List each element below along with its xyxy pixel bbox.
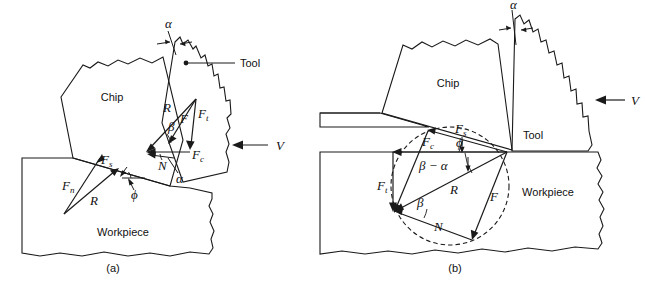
panel-a: Workpiece Chip Tool Tool α V R F <box>22 16 286 274</box>
rake-angle-label-b: α <box>510 0 518 12</box>
force-R-label-b: R <box>449 182 458 197</box>
force-F-label-b: F <box>489 189 499 204</box>
chip-shape-b <box>382 39 512 150</box>
caption-b: (b) <box>448 262 461 274</box>
velocity-label-a: V <box>276 138 286 153</box>
force-Ft-label-b: Ft <box>376 178 388 195</box>
chip-label-a: Chip <box>101 91 124 103</box>
workpiece-shape-b <box>320 152 604 254</box>
rake-angle-label-a: α <box>165 16 173 31</box>
force-N-label-b: N <box>433 219 444 234</box>
angle-phi-label-b: ϕ <box>456 135 463 150</box>
angle-beta-minus-alpha-label-b: β − α <box>418 158 449 173</box>
force-Fs-label-a: Fs <box>100 152 113 169</box>
figure-svg: Workpiece Chip Tool Tool α V R F <box>0 0 645 286</box>
velocity-arrowhead-b <box>595 96 606 105</box>
force-R2-label-a: R <box>89 193 98 208</box>
shear-angle-arc-a <box>129 172 132 178</box>
rake-arrowhead-right-b <box>521 27 527 32</box>
velocity-label-b: V <box>631 93 641 108</box>
angle-alpha-label-a: α <box>176 171 184 186</box>
workpiece-label-a: Workpiece <box>97 226 149 238</box>
force-R-label-a: R <box>162 100 171 115</box>
angle-beta-label-b: β <box>416 195 424 210</box>
workpiece-shape-a <box>22 158 214 256</box>
force-N-label-a: N <box>157 158 168 173</box>
rake-arrowhead-left-b <box>506 26 511 31</box>
chip-label-b: Chip <box>437 77 460 89</box>
shear-angle-arrowhead-a <box>128 178 134 185</box>
workpiece-upper-left-b <box>320 113 429 127</box>
force-Fs-line-b <box>431 131 507 152</box>
angle-beta-label-a: β <box>167 119 175 134</box>
figure-container: Workpiece Chip Tool Tool α V R F <box>0 0 645 286</box>
rake-arrowhead-left-a <box>165 40 170 45</box>
caption-a: (a) <box>106 262 119 274</box>
tool-callout-label-a: Tool <box>240 57 260 69</box>
force-Fc-label-a: Fc <box>191 147 204 164</box>
panel-b: Workpiece Chip Tool α V Fs Fc <box>320 0 641 274</box>
tool-label-b: Tool <box>523 129 543 141</box>
angle-beta-arc-b <box>424 209 427 218</box>
velocity-arrowhead-a <box>232 141 243 150</box>
workpiece-label-b: Workpiece <box>522 186 574 198</box>
tool-callout-dot-a <box>184 61 189 66</box>
force-F-label-a: F <box>179 111 189 126</box>
force-Fn-label-a: Fn <box>61 178 75 195</box>
force-Ft-label-a: Ft <box>197 106 209 123</box>
force-F-arrowhead-a <box>168 135 177 144</box>
shear-angle-label-a: ϕ <box>131 187 138 202</box>
